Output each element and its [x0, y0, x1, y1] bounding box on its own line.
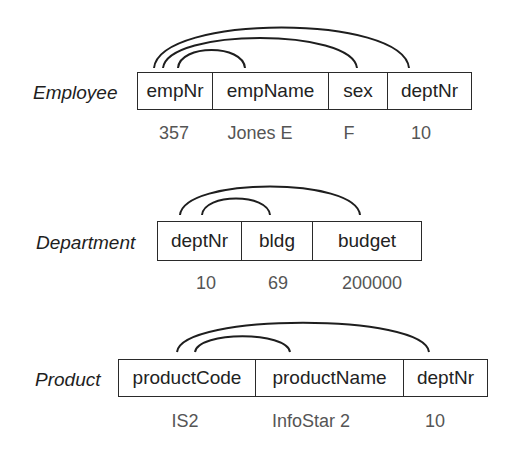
value-deptNr: 10 — [425, 412, 445, 430]
value-empName: Jones E — [227, 124, 292, 142]
relation-name-product: Product — [35, 370, 100, 389]
value-productCode: IS2 — [171, 412, 198, 430]
arc-empNr-sex — [163, 38, 357, 68]
attribute-productCode: productCode — [119, 360, 256, 396]
value-empNr: 357 — [159, 124, 189, 142]
value-deptNr: 10 — [196, 274, 216, 292]
attribute-row-employee: empNr empName sex deptNr — [137, 72, 472, 110]
attribute-deptNr: deptNr — [388, 73, 471, 109]
arc-productCode-deptNr — [177, 323, 429, 352]
attribute-empNr: empNr — [138, 73, 213, 109]
value-productName: InfoStar 2 — [272, 412, 350, 430]
arc-empNr-empName — [178, 50, 245, 68]
value-sex: F — [344, 124, 355, 142]
value-deptNr: 10 — [411, 124, 431, 142]
attribute-deptNr: deptNr — [404, 360, 487, 396]
arc-deptNr-budget — [180, 187, 360, 216]
attribute-row-product: productCode productName deptNr — [118, 359, 488, 397]
attribute-empName: empName — [213, 73, 329, 109]
attribute-deptNr: deptNr — [158, 222, 242, 260]
attribute-budget: budget — [313, 222, 421, 260]
arc-empNr-deptNr — [154, 28, 409, 69]
value-bldg: 69 — [268, 274, 288, 292]
attribute-row-department: deptNr bldg budget — [157, 221, 422, 261]
arc-productCode-productName — [195, 336, 290, 352]
relation-name-department: Department — [36, 233, 135, 252]
arc-deptNr-bldg — [202, 199, 270, 216]
attribute-productName: productName — [256, 360, 404, 396]
attribute-sex: sex — [329, 73, 388, 109]
attribute-bldg: bldg — [242, 222, 313, 260]
relation-name-employee: Employee — [33, 83, 118, 102]
value-budget: 200000 — [342, 274, 402, 292]
